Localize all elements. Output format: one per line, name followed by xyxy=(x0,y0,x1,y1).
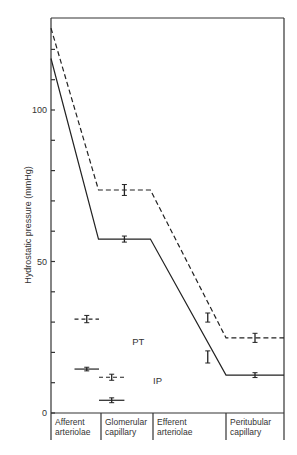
y-tick-label: 50 xyxy=(37,257,47,267)
pressure-chart: 050100 Hydrostatic pressure (mmHg) Affer… xyxy=(0,0,297,455)
category-label: Peritubular xyxy=(230,417,271,427)
category-label: arteriolae xyxy=(55,427,91,437)
ip-label: IP xyxy=(153,375,162,386)
dashed-series-line xyxy=(51,28,284,338)
category-label: arteriolae xyxy=(157,427,193,437)
pt-label: PT xyxy=(132,336,144,347)
category-label: Glomerular xyxy=(105,417,147,427)
y-axis-label: Hydrostatic pressure (mmHg) xyxy=(23,166,33,284)
y-tick-label: 100 xyxy=(32,105,47,115)
solid-series-line xyxy=(51,58,284,375)
pt-ip-measurements xyxy=(75,315,125,402)
category-label: Efferent xyxy=(157,417,187,427)
category-label: capillary xyxy=(105,427,137,437)
data-series xyxy=(51,28,284,377)
annotations: PTIP xyxy=(132,336,162,386)
plot-frame xyxy=(51,18,284,440)
category-label: capillary xyxy=(230,427,262,437)
x-axis-categories: AfferentarteriolaeGlomerularcapillaryEff… xyxy=(55,417,271,437)
category-label: Afferent xyxy=(55,417,85,427)
y-tick-label: 0 xyxy=(42,408,47,418)
